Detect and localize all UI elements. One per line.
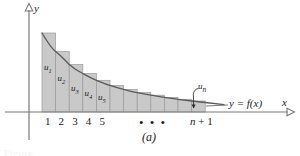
bar-label-u1: u1 — [44, 63, 52, 74]
bar-label-u4-sub: 4 — [89, 93, 92, 100]
bar-label-u3-sub: 3 — [76, 88, 79, 95]
y-axis-label: y — [34, 3, 39, 14]
tick-label-5: 5 — [99, 116, 105, 127]
tick-label-2: 2 — [59, 116, 65, 127]
tick-label-ellipsis: • • • — [139, 116, 167, 129]
tick-label-4: 4 — [86, 116, 92, 127]
bar-label-u5: u5 — [98, 93, 106, 104]
bar-label-un: un — [198, 82, 206, 93]
bar-label-un-sub: n — [203, 85, 207, 94]
bar-label-u3: u3 — [71, 84, 79, 95]
y-axis-arrowhead — [25, 4, 33, 12]
tick-label-1: 1 — [45, 116, 51, 127]
bar-label-u4: u4 — [85, 89, 93, 100]
x-axis-arrowhead — [287, 108, 295, 116]
tick-label-3: 3 — [72, 116, 78, 127]
bar-label-u1-sub: 1 — [49, 67, 52, 74]
x-axis-label: x — [282, 97, 287, 108]
curve-equation-label: y = f(x) — [229, 98, 262, 109]
bar-label-u5-sub: 5 — [103, 97, 106, 104]
tick-label-n-plus-1: n + 1 — [190, 116, 213, 127]
bar-label-u2: u2 — [58, 74, 66, 85]
tick-label-plus: + — [196, 115, 208, 127]
bottom-cutoff-text: Figure — [4, 148, 33, 156]
tick-label-one: 1 — [207, 115, 213, 127]
bar-label-u2-sub: 2 — [62, 78, 65, 85]
figure-caption: (a) — [142, 131, 156, 143]
figure-container: y x u1 u2 u3 u4 u5 un y = f(x) 1 2 3 4 5… — [0, 0, 300, 156]
curve-label-leader — [206, 105, 228, 106]
